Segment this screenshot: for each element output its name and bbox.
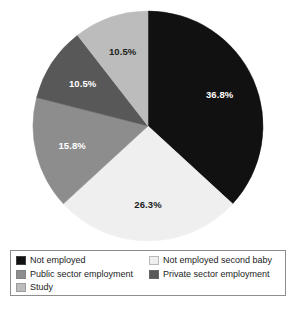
pie-chart-plot-area: 36.8%26.3%15.8%10.5%10.5% bbox=[0, 0, 296, 248]
legend-label-not-employed-second-baby: Not employed second baby bbox=[163, 256, 272, 265]
legend-swatch-icon-not-employed bbox=[16, 256, 26, 265]
legend-label-not-employed: Not employed bbox=[30, 256, 86, 265]
legend-label-study: Study bbox=[30, 283, 53, 292]
pie-chart-figure: 36.8%26.3%15.8%10.5%10.5% Not employed N… bbox=[0, 0, 296, 315]
legend-item-study[interactable]: Study bbox=[16, 281, 149, 295]
pie-slice-value-label: 10.5% bbox=[109, 46, 137, 57]
legend-item-not-employed-second-baby[interactable]: Not employed second baby bbox=[149, 254, 284, 268]
legend: Not employed Not employed second baby Pu… bbox=[10, 250, 286, 296]
legend-grid: Not employed Not employed second baby Pu… bbox=[16, 254, 284, 295]
pie-slice-value-label: 36.8% bbox=[206, 89, 234, 100]
pie-slice-value-label: 26.3% bbox=[134, 199, 162, 210]
legend-label-private-sector-employment: Private sector employment bbox=[163, 270, 270, 279]
legend-item-private-sector-employment[interactable]: Private sector employment bbox=[149, 268, 284, 282]
legend-swatch-icon-public-sector-employment bbox=[16, 270, 26, 279]
pie-chart-svg: 36.8%26.3%15.8%10.5%10.5% bbox=[0, 0, 296, 248]
pie-slice-value-label: 10.5% bbox=[69, 78, 97, 89]
pie-slice-value-label: 15.8% bbox=[58, 140, 86, 151]
legend-swatch-icon-not-employed-second-baby bbox=[149, 256, 159, 265]
legend-swatch-icon-private-sector-employment bbox=[149, 270, 159, 279]
legend-swatch-icon-study bbox=[16, 283, 26, 292]
legend-label-public-sector-employment: Public sector employment bbox=[30, 270, 133, 279]
legend-item-public-sector-employment[interactable]: Public sector employment bbox=[16, 268, 149, 282]
legend-item-not-employed[interactable]: Not employed bbox=[16, 254, 149, 268]
